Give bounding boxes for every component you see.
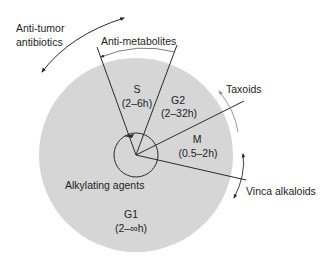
cell-cycle-diagram: S (2–6h) G2 (2–32h) M (0.5–2h) G1 (2–∞h)… (0, 0, 328, 265)
vinca-alkaloids-label: Vinca alkaloids (246, 185, 316, 197)
vinca-double-arrow (234, 154, 244, 198)
anti-metabolites-label: Anti-metabolites (101, 35, 176, 47)
phase-s-label: S (133, 83, 140, 95)
phase-s-duration: (2–6h) (122, 97, 152, 109)
phase-m-duration: (0.5–2h) (178, 147, 217, 159)
phase-g1-label: G1 (124, 208, 138, 220)
anti-tumor-label-line1: Anti-tumor (16, 22, 65, 34)
phase-g2-duration: (2–32h) (161, 107, 197, 119)
alkylating-agents-label: Alkylating agents (65, 179, 144, 191)
anti-metabolites-arc-arrow (101, 48, 175, 57)
anti-tumor-label-line2: antibiotics (16, 36, 63, 48)
phase-g1-duration: (2–∞h) (115, 222, 147, 234)
phase-m-label: M (193, 133, 202, 145)
phase-g2-label: G2 (171, 94, 185, 106)
taxoids-label: Taxoids (226, 83, 262, 95)
